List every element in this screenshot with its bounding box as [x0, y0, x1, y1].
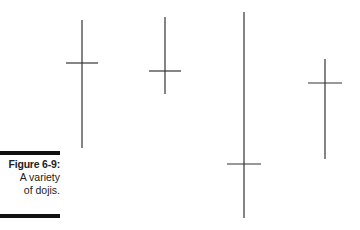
- doji-3: [227, 12, 261, 218]
- caption-line-1: A variety: [0, 171, 60, 184]
- doji-4: [308, 59, 342, 159]
- caption-top-rule: [0, 151, 60, 155]
- figure-label: Figure 6-9:: [0, 158, 60, 171]
- caption-bottom-rule: [0, 214, 60, 218]
- doji-1: [66, 20, 98, 148]
- figure-caption: Figure 6-9: A variety of dojis.: [0, 158, 60, 197]
- caption-line-2: of dojis.: [0, 184, 60, 197]
- doji-2: [149, 17, 181, 94]
